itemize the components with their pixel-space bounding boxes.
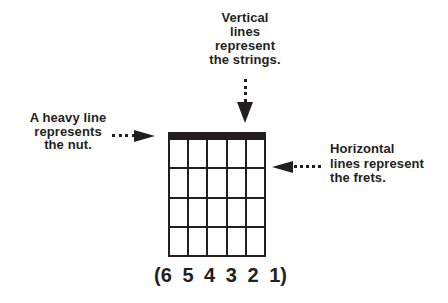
fret-cell xyxy=(247,228,264,255)
fret-grid-cells xyxy=(168,138,266,257)
fret-cell xyxy=(228,199,245,226)
string-number: 3 xyxy=(226,263,237,287)
fret-cell xyxy=(189,199,206,226)
fret-cell xyxy=(189,169,206,196)
strings-annotation-line: the strings. xyxy=(183,53,307,67)
fret-cell xyxy=(208,169,225,196)
strings-arrow-dotted-line xyxy=(244,79,247,102)
string-number: 1) xyxy=(269,263,287,287)
frets-annotation-line: Horizontal xyxy=(330,142,440,157)
arrowhead-down-icon xyxy=(237,102,253,123)
nut-arrow-dotted-line xyxy=(112,134,135,137)
fret-cell xyxy=(170,140,187,167)
fret-cell xyxy=(189,228,206,255)
string-numbers: (6 5 4 3 2 1) xyxy=(154,263,287,287)
fret-cell xyxy=(170,228,187,255)
frets-annotation-line: lines represent xyxy=(330,157,440,172)
arrowhead-left-icon xyxy=(272,161,293,173)
fret-cell xyxy=(228,169,245,196)
fret-cell xyxy=(189,140,206,167)
fret-cell xyxy=(247,140,264,167)
fret-cell xyxy=(170,169,187,196)
nut-annotation-line: A heavy line xyxy=(20,111,116,125)
string-number: 5 xyxy=(182,263,193,287)
frets-arrow-dotted-line xyxy=(294,165,321,168)
arrowhead-right-icon xyxy=(134,130,155,142)
nut-annotation-line: the nut. xyxy=(20,138,116,152)
frets-annotation: Horizontal lines represent the frets. xyxy=(330,142,440,186)
strings-annotation-line: represent xyxy=(183,39,307,53)
fret-cell xyxy=(247,199,264,226)
fret-cell xyxy=(228,228,245,255)
strings-annotation-line: Vertical xyxy=(183,11,307,25)
nut-annotation-line: represents xyxy=(20,125,116,139)
fret-cell xyxy=(208,140,225,167)
fret-cell xyxy=(208,199,225,226)
fret-cell xyxy=(228,140,245,167)
fret-cell xyxy=(170,199,187,226)
nut-annotation: A heavy line represents the nut. xyxy=(20,111,116,152)
strings-annotation-line: lines xyxy=(183,25,307,39)
string-number: 2 xyxy=(247,263,258,287)
fret-cell xyxy=(247,169,264,196)
chord-chart-diagram: Vertical lines represent the strings. A … xyxy=(0,0,448,303)
string-number: 4 xyxy=(204,263,215,287)
fret-cell xyxy=(208,228,225,255)
string-number: (6 xyxy=(154,263,172,287)
strings-annotation: Vertical lines represent the strings. xyxy=(183,11,307,67)
chord-grid xyxy=(168,132,266,257)
frets-annotation-line: the frets. xyxy=(330,171,440,186)
